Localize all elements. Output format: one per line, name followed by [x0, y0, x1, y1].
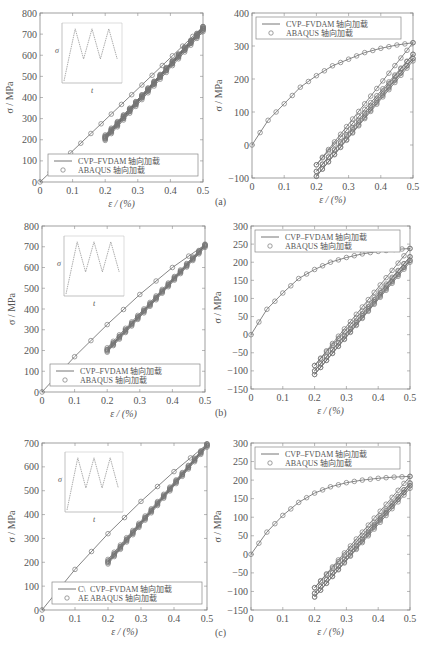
load-history-inset: σt [55, 23, 122, 95]
x-tick-label: 0 [250, 181, 255, 192]
x-tick-label: 0 [38, 185, 43, 196]
legend-line-label: CVP–FVDAM 轴向加载 [285, 232, 367, 242]
legend-line-label: CVP–FVDAM 轴向加载 [286, 19, 368, 29]
legend-truncated-text: AE [78, 594, 89, 603]
legend-line-label: CVP–FVDAM 轴向加载 [78, 156, 160, 166]
chart-panel-b-left: 00.10.20.30.40.5010020030040050060070080… [6, 221, 211, 421]
y-tick-label: 150 [233, 275, 248, 286]
y-tick-label: 100 [233, 293, 248, 304]
y-axis-label: σ / MPa [212, 291, 223, 324]
y-tick-label: 300 [233, 438, 248, 449]
y-tick-label: 300 [24, 533, 39, 544]
chart-panel-c-left: 00.10.20.30.40.50100200300400500600700ε … [6, 438, 213, 639]
load-history-inset: σt [58, 452, 123, 524]
y-tick-label: 100 [234, 107, 249, 118]
x-tick-label: 0.2 [308, 392, 321, 403]
y-tick-label: 400 [24, 509, 39, 520]
x-tick-label: 0.5 [407, 181, 420, 192]
x-tick-label: 0.4 [166, 395, 179, 406]
inset-y-label: σ [58, 475, 63, 484]
x-tick-label: 0.3 [134, 395, 147, 406]
chart-panel-a-right: 00.10.20.30.40.5−1000100200300400ε / (%)… [213, 8, 419, 209]
y-tick-label: −100 [227, 365, 248, 376]
y-tick-label: 200 [24, 345, 39, 356]
y-axis-label: σ / MPa [6, 510, 17, 543]
legend: CVP–FVDAM 轴向加载ABAQUS 轴向加载 [256, 17, 401, 39]
chart-panel-a-left: 00.10.20.30.40.5010020030040050060070080… [4, 8, 209, 211]
legend-line-label: CVP–FVDAM 轴向加载 [80, 366, 162, 376]
y-tick-label: −50 [232, 567, 248, 578]
y-tick-label: 50 [238, 530, 248, 541]
x-tick-label: 0.3 [340, 392, 353, 403]
legend-marker-label: ABAQUS 轴向加载 [90, 593, 157, 603]
y-tick-label: 600 [24, 262, 39, 273]
y-tick-label: 200 [233, 257, 248, 268]
x-tick-label: 0.1 [66, 185, 79, 196]
y-tick-label: −150 [227, 384, 248, 395]
inset-y-label: σ [57, 259, 62, 268]
x-tick-label: 0.1 [68, 395, 81, 406]
y-tick-label: 0 [244, 140, 249, 151]
x-axis-label: ε / (%) [317, 626, 344, 638]
x-tick-label: 0.1 [69, 613, 82, 624]
panel-label: (a) [215, 196, 226, 208]
y-tick-label: 150 [233, 493, 248, 504]
y-tick-label: 0 [34, 387, 39, 398]
y-axis-label: σ / MPa [4, 81, 15, 114]
legend-marker-label: ABAQUS 轴向加载 [285, 458, 352, 468]
y-tick-label: −100 [227, 586, 248, 597]
y-tick-label: 500 [22, 71, 37, 82]
panel-label: (b) [215, 407, 227, 419]
y-tick-label: 0 [32, 177, 37, 188]
y-tick-label: 200 [233, 475, 248, 486]
x-tick-label: 0.4 [168, 613, 181, 624]
legend: CVP–FVDAM 轴向加载ABAQUS 轴向加载 [255, 230, 400, 252]
y-tick-label: 300 [233, 221, 248, 232]
legend-marker-label: ABAQUS 轴向加载 [285, 241, 352, 251]
y-tick-label: 300 [24, 324, 39, 335]
y-tick-label: −100 [228, 173, 249, 184]
y-tick-label: 100 [233, 512, 248, 523]
load-history-curve [64, 29, 117, 81]
load-history-curve [67, 458, 118, 510]
x-tick-label: 0.2 [102, 613, 115, 624]
inset-x-label: t [91, 86, 94, 95]
y-tick-label: 200 [234, 74, 249, 85]
x-tick-label: 0.3 [132, 185, 145, 196]
x-tick-label: 0.5 [404, 613, 417, 624]
cvp-fvdam-curve [315, 476, 410, 587]
cvp-fvdam-curve [316, 61, 413, 176]
y-tick-label: 0 [243, 329, 248, 340]
chart-panel-b-right: 00.10.20.30.40.5−150−100−500501001502002… [212, 221, 416, 420]
inset-x-label: t [93, 515, 96, 524]
y-tick-label: 250 [233, 239, 248, 250]
legend-line-label: CVP–FVDAM 轴向加载 [90, 584, 172, 594]
x-tick-label: 0.3 [135, 613, 148, 624]
y-tick-label: 200 [22, 134, 37, 145]
x-axis-label: ε / (%) [319, 194, 346, 206]
y-tick-label: 250 [233, 456, 248, 467]
x-tick-label: 0.4 [372, 613, 385, 624]
legend-marker-label: ABAQUS 轴向加载 [78, 165, 145, 175]
load-history-curve [66, 242, 119, 294]
load-history-inset: σt [57, 236, 124, 308]
y-tick-label: 800 [24, 221, 39, 232]
legend: C\AECVP–FVDAM 轴向加载ABAQUS 轴向加载 [52, 582, 202, 604]
x-tick-label: 0.3 [342, 181, 355, 192]
y-tick-label: 100 [22, 155, 37, 166]
y-axis-label: σ / MPa [6, 292, 17, 325]
x-axis-label: ε / (%) [317, 405, 344, 417]
y-tick-label: 400 [234, 8, 249, 19]
x-tick-label: 0.5 [201, 613, 214, 624]
y-tick-label: 100 [24, 581, 39, 592]
y-axis-label: σ / MPa [213, 79, 224, 112]
y-tick-label: 500 [24, 485, 39, 496]
panel-label: (c) [215, 627, 226, 639]
legend-marker-label: ABAQUS 轴向加载 [80, 375, 147, 385]
x-tick-label: 0.4 [164, 185, 177, 196]
cvp-fvdam-curve [315, 249, 410, 366]
x-tick-label: 0.5 [404, 392, 417, 403]
x-tick-label: 0.1 [277, 392, 290, 403]
cvp-fvdam-curve [316, 54, 413, 165]
x-tick-label: 0.3 [340, 613, 353, 624]
